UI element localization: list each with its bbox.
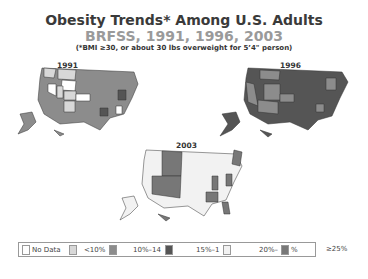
chart-title: Obesity Trends* Among U.S. Adults [0, 12, 368, 28]
legend-swatch-10-14 [109, 245, 117, 255]
legend-label-10-14: 10%–14 [133, 245, 161, 255]
map-1991 [14, 64, 144, 140]
legend-label-lt10: <10% [84, 245, 105, 255]
map-2003 [118, 146, 256, 226]
legend: No Data <10% 10%–14 15%–1 20%– % [18, 242, 316, 257]
map-1996 [218, 64, 363, 140]
legend-label-ge25-partial: % [291, 245, 298, 255]
legend-label-nodata: No Data [32, 245, 60, 255]
legend-swatch-15-19 [165, 245, 173, 255]
legend-swatch-nodata [22, 245, 30, 255]
legend-swatch-ge25 [281, 245, 289, 255]
chart-subtitle: BRFSS, 1991, 1996, 2003 [0, 28, 368, 44]
bmi-footnote: (*BMI ≥30, or about 30 lbs overweight fo… [0, 44, 368, 52]
legend-swatch-lt10 [69, 245, 77, 255]
legend-label-20-24: 20%– [259, 245, 278, 255]
legend-swatch-20-24 [223, 245, 231, 255]
legend-label-15-19: 15%–1 [196, 245, 220, 255]
legend-label-ge25: ≥25% [326, 244, 347, 254]
